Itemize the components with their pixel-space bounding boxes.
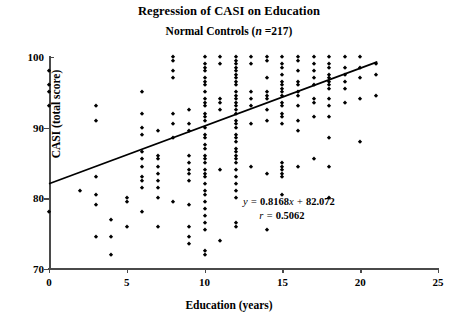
plot-area (49, 57, 438, 269)
y-tick-label-100: 100 (28, 51, 45, 63)
equation-slope: 0.8168 (260, 196, 289, 207)
x-axis-title: Education (years) (0, 299, 458, 311)
equation-equals: = (248, 196, 260, 207)
x-tick-label-25: 25 (433, 276, 444, 288)
x-tick-25 (438, 268, 439, 273)
y-tick-label-70: 70 (33, 263, 44, 275)
x-tick-label-0: 0 (46, 276, 52, 288)
chart-subtitle: Normal Controls (n =217) (0, 25, 458, 37)
chart-title: Regression of CASI on Education (0, 4, 458, 19)
x-tick-label-5: 5 (124, 276, 130, 288)
correlation-line: r = 0.5062 (243, 209, 335, 223)
chart-figure: Regression of CASI on Education Normal C… (0, 0, 458, 323)
r-equals: = (263, 210, 275, 221)
regression-line (49, 57, 438, 269)
equation-plus: + (294, 196, 306, 207)
x-tick-label-10: 10 (199, 276, 210, 288)
x-tick-label-20: 20 (355, 276, 366, 288)
regression-annotation: y = 0.8168x + 82.072 r = 0.5062 (243, 195, 335, 223)
x-tick-label-15: 15 (277, 276, 288, 288)
subtitle-prefix: Normal Controls ( (166, 25, 256, 37)
subtitle-suffix: =217) (262, 25, 293, 37)
equation-intercept: 82.072 (306, 196, 335, 207)
y-tick-label-90: 90 (33, 122, 44, 134)
y-tick-label-80: 80 (33, 192, 44, 204)
equation-line: y = 0.8168x + 82.072 (243, 195, 335, 209)
r-value: 0.5062 (276, 210, 305, 221)
